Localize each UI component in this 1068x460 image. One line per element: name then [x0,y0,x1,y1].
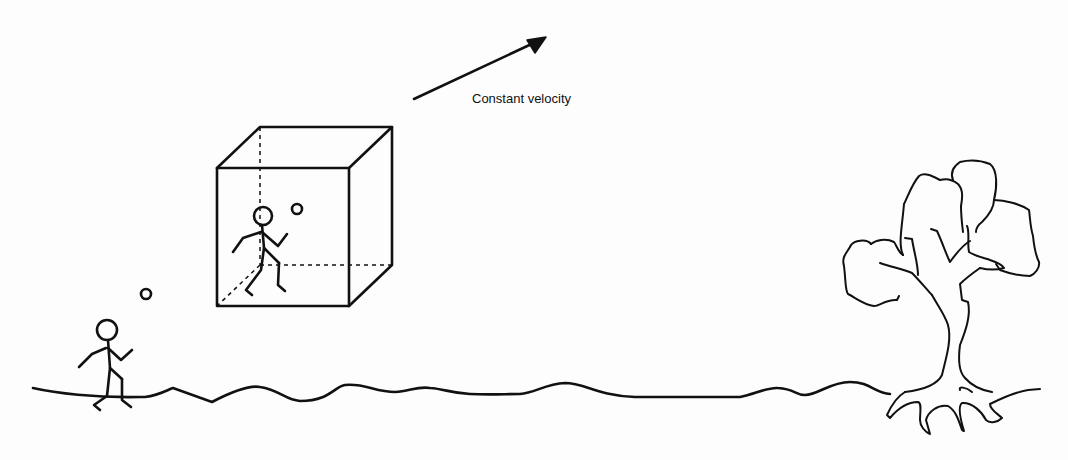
ball-inside [292,204,302,214]
tree [843,161,1040,434]
ball-outside [141,289,151,299]
diagram-canvas [0,0,1068,460]
velocity-arrow-icon [414,37,546,99]
relativity-diagram: Constant velocity [0,0,1068,460]
velocity-label: Constant velocity [472,91,571,106]
moving-cube [217,127,392,306]
ground-line [33,382,890,402]
